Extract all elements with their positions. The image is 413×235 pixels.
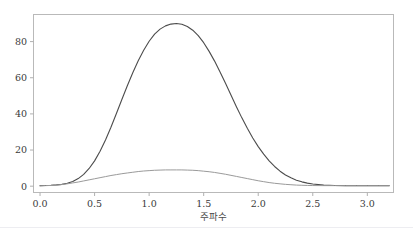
y-tick-label: 80 <box>15 36 27 47</box>
x-axis-title: 주파수 <box>200 211 227 222</box>
x-tick-label: 2.5 <box>305 198 320 209</box>
y-tick-label: 20 <box>15 144 27 155</box>
x-axis-ticks <box>40 193 367 197</box>
y-axis-tick-labels: 020406080 <box>15 36 27 192</box>
x-tick-label: 1.0 <box>142 198 157 209</box>
chart-figure: 020406080 0.00.51.01.52.02.53.0 주파수 <box>0 0 413 235</box>
y-tick-label: 40 <box>15 108 27 119</box>
y-tick-label: 0 <box>21 181 27 192</box>
line-chart: 020406080 0.00.51.01.52.02.53.0 주파수 <box>0 0 413 235</box>
footer-divider <box>0 227 413 228</box>
x-tick-label: 0.0 <box>32 198 47 209</box>
x-axis-tick-labels: 0.00.51.01.52.02.53.0 <box>32 198 374 209</box>
y-axis-ticks <box>30 42 34 187</box>
x-tick-label: 0.5 <box>87 198 102 209</box>
x-tick-label: 3.0 <box>360 198 375 209</box>
plot-background <box>33 14 394 193</box>
x-tick-label: 2.0 <box>251 198 266 209</box>
y-tick-label: 60 <box>15 72 27 83</box>
x-tick-label: 1.5 <box>196 198 211 209</box>
